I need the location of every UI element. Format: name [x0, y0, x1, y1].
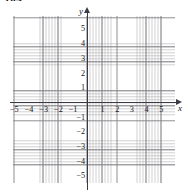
y-tick-label: −3: [76, 143, 86, 151]
x-tick-label: 4: [145, 106, 149, 114]
y-tick-label: 1: [76, 84, 86, 92]
y-tick-label: −2: [76, 128, 86, 136]
coordinate-plane: x y −5−4−3−2−112345 54321−1−2−3−4−5: [13, 16, 175, 183]
x-tick-label: 3: [130, 106, 134, 114]
major-gridlines: [13, 16, 175, 183]
x-axis-label: x: [178, 104, 182, 113]
x-tick-label: 5: [159, 106, 163, 114]
y-axis-arrow-icon: [84, 7, 90, 13]
y-tick-label: 4: [76, 40, 86, 48]
problem-number: 104: [4, 0, 22, 1]
y-axis-label: y: [79, 7, 83, 16]
y-tick-label: −5: [76, 172, 86, 180]
x-axis-line: [10, 102, 178, 103]
y-tick-label: 2: [76, 69, 86, 77]
y-tick-label: 5: [76, 25, 86, 33]
y-tick-label: −1: [76, 113, 86, 121]
y-axis-line: [87, 10, 88, 190]
y-tick-label: −4: [76, 158, 86, 166]
x-tick-label: 2: [115, 106, 119, 114]
x-tick-label: −4: [25, 106, 34, 114]
x-tick-label: −5: [10, 106, 19, 114]
x-tick-label: −2: [54, 106, 63, 114]
y-tick-label: 3: [76, 55, 86, 63]
x-tick-label: 1: [100, 106, 104, 114]
x-tick-label: −3: [39, 106, 48, 114]
